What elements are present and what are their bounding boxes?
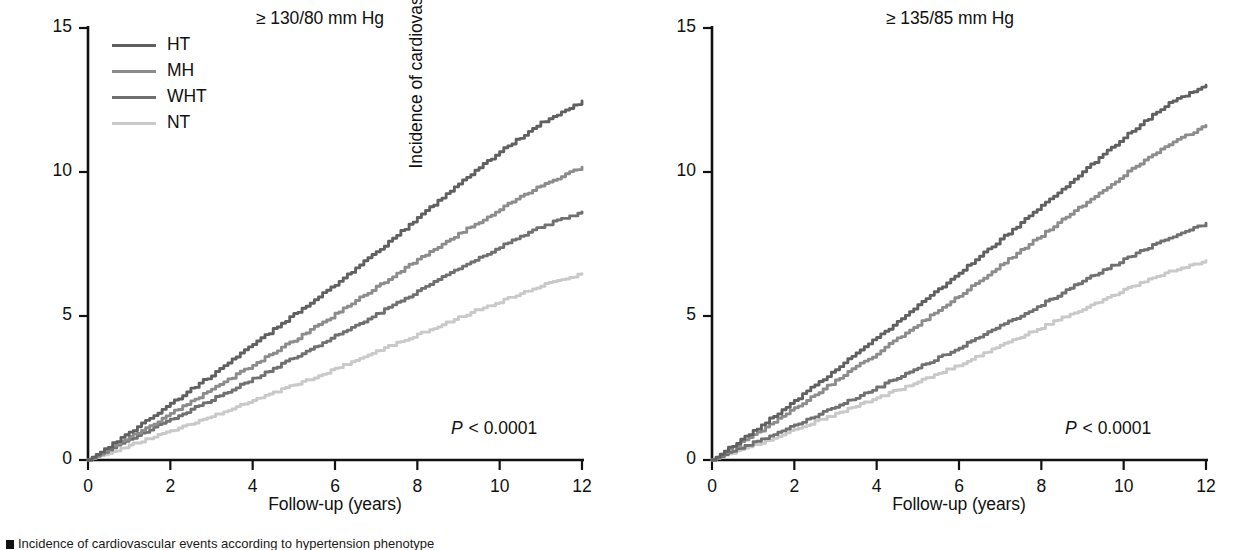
x-tick-label: 6: [318, 476, 352, 497]
x-tick-label: 12: [565, 476, 599, 497]
panel-title: ≥ 130/80 mm Hg: [256, 8, 384, 29]
p-value-text: < 0.0001: [1078, 418, 1151, 438]
legend-label-wht: WHT: [167, 88, 207, 106]
legend-item-wht: WHT: [112, 84, 207, 110]
y-tick-label: 10: [34, 160, 72, 181]
panel-title: ≥ 135/85 mm Hg: [886, 8, 1014, 29]
caption-bullet-icon: [6, 540, 14, 549]
x-tick-label: 8: [400, 476, 434, 497]
plot-area-right: [624, 0, 1248, 520]
legend: HT MH WHT NT: [112, 32, 207, 136]
x-tick-label: 0: [695, 476, 729, 497]
x-tick-label: 10: [1107, 476, 1141, 497]
x-tick-label: 6: [942, 476, 976, 497]
y-axis-title: Incidence of cardiovascular events (%): [401, 0, 431, 255]
chart-panel-130-80: Incidence of cardiovascular events (%) F…: [0, 0, 624, 520]
legend-label-ht: HT: [167, 36, 190, 54]
figure-cardiovascular-incidence: Incidence of cardiovascular events (%) F…: [0, 0, 1248, 550]
x-tick-label: 8: [1024, 476, 1058, 497]
plot-area-left: [0, 0, 624, 520]
p-value-annotation: P < 0.0001: [1065, 418, 1151, 439]
x-axis-title: Follow-up (years): [88, 494, 582, 515]
y-tick-label: 0: [658, 448, 696, 469]
series-line-mh: [88, 167, 582, 460]
y-tick-label: 15: [658, 16, 696, 37]
series-line-ht: [88, 101, 582, 460]
figure-caption: Incidence of cardiovascular events accor…: [6, 536, 1236, 550]
caption-text: Incidence of cardiovascular events accor…: [18, 536, 434, 550]
legend-item-ht: HT: [112, 32, 207, 58]
y-tick-label: 5: [658, 304, 696, 325]
legend-item-mh: MH: [112, 58, 207, 84]
legend-label-mh: MH: [167, 62, 194, 80]
p-value-text: < 0.0001: [464, 418, 537, 438]
p-value-annotation: P < 0.0001: [451, 418, 537, 439]
y-tick-label: 0: [34, 448, 72, 469]
y-tick-label: 10: [658, 160, 696, 181]
y-tick-label: 5: [34, 304, 72, 325]
series-line-ht: [712, 85, 1206, 460]
x-tick-label: 4: [860, 476, 894, 497]
legend-swatch-wht: [112, 96, 156, 99]
legend-item-nt: NT: [112, 110, 207, 136]
x-tick-label: 2: [777, 476, 811, 497]
y-tick-label: 15: [34, 16, 72, 37]
x-tick-label: 10: [483, 476, 517, 497]
p-italic: P: [1065, 418, 1078, 438]
x-tick-label: 0: [71, 476, 105, 497]
legend-swatch-mh: [112, 70, 156, 73]
legend-swatch-nt: [112, 122, 156, 125]
legend-swatch-ht: [112, 44, 156, 47]
legend-label-nt: NT: [167, 114, 190, 132]
x-axis-title: Follow-up (years): [712, 494, 1206, 515]
x-tick-label: 12: [1189, 476, 1223, 497]
p-italic: P: [451, 418, 464, 438]
chart-panel-135-85: Incidence of cardiovascular events (%) F…: [624, 0, 1248, 520]
x-tick-label: 4: [236, 476, 270, 497]
x-tick-label: 2: [153, 476, 187, 497]
